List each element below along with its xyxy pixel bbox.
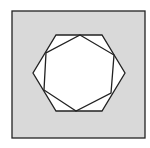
diagram-canvas [0, 0, 150, 148]
geometry-diagram [0, 0, 150, 148]
